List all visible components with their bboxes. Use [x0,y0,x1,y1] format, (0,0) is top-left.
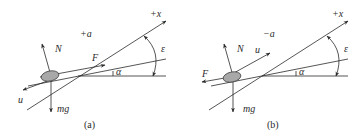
label-alpha: α [299,66,305,77]
label-epsilon: ε [161,43,165,54]
label-normal-force: N [236,43,245,54]
velocity-u-arrow [23,80,50,90]
label-applied-force: F [91,52,99,63]
panel-b: −a +x N F u mg α ε (b) [201,8,348,131]
label-x-axis: +x [150,8,162,19]
label-weight: mg [243,103,255,114]
label-alpha: α [116,66,122,77]
caption-a: (a) [84,119,95,131]
label-epsilon: ε [344,43,348,54]
label-normal-force: N [54,43,63,54]
normal-force-arrow [224,44,233,76]
epsilon-angle-arc [144,36,156,76]
caption-b: (b) [267,119,279,131]
label-velocity: u [255,44,260,55]
label-applied-force: F [201,68,209,79]
block-body [222,70,242,84]
label-x-axis: +x [332,8,344,19]
velocity-u-arrow [232,53,270,74]
panel-a: +a +x N F u mg α ε (a) [18,8,166,131]
figure-container: +a +x N F u mg α ε (a) −a +x N [0,0,363,140]
label-acceleration: +a [80,28,92,39]
epsilon-angle-arc [327,36,339,76]
label-acceleration: −a [263,28,275,39]
label-velocity: u [18,94,23,105]
label-weight: mg [57,103,69,114]
